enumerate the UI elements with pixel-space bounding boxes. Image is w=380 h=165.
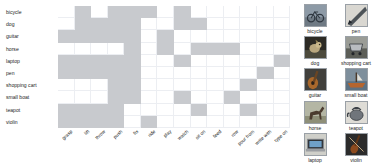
heatmap-cell: [141, 91, 158, 103]
heatmap-cell: [224, 79, 241, 91]
heatmap-cell: [75, 43, 92, 55]
heatmap-cell: [274, 30, 291, 42]
heatmap-cell: [174, 116, 191, 128]
row-label: laptop: [6, 55, 54, 67]
gallery-item-label: guitar: [296, 92, 334, 98]
heatmap-cell: [91, 55, 108, 67]
heatmap-cell: [174, 67, 191, 79]
heatmap-cell: [191, 116, 208, 128]
heatmap-cell: [274, 43, 291, 55]
column-label: throw: [94, 129, 106, 141]
gallery-item-label: bicycle: [296, 28, 334, 34]
shopping-cart-thumbnail: [345, 36, 368, 59]
heatmap-cell: [91, 79, 108, 91]
heatmap-cell: [58, 18, 75, 30]
gallery-item: dog: [296, 36, 334, 66]
row-label: bicycle: [6, 6, 54, 18]
laptop-thumbnail: [304, 133, 327, 156]
heatmap-cell: [157, 116, 174, 128]
gallery-item: bicycle: [296, 4, 334, 34]
heatmap-cell: [207, 104, 224, 116]
heatmap-cell: [124, 43, 141, 55]
column-label: ride: [147, 129, 156, 138]
heatmap-row: [58, 116, 290, 128]
gallery-item: violin: [337, 133, 375, 163]
heatmap-cell: [141, 18, 158, 30]
heatmap-row: [58, 67, 290, 79]
row-label: violin: [6, 116, 54, 128]
heatmap-cell: [257, 67, 274, 79]
gallery-item: laptop: [296, 133, 334, 163]
heatmap-cell: [75, 30, 92, 42]
heatmap-cell: [274, 55, 291, 67]
heatmap-cell: [157, 79, 174, 91]
heatmap-cell: [224, 30, 241, 42]
heatmap-cell: [108, 67, 125, 79]
heatmap-cell: [124, 104, 141, 116]
heatmap-cell: [174, 91, 191, 103]
heatmap-cell: [157, 104, 174, 116]
heatmap-cell: [91, 104, 108, 116]
heatmap-cell: [58, 116, 75, 128]
heatmap-cell: [108, 104, 125, 116]
heatmap-cell: [91, 6, 108, 18]
gallery-item-label: horse: [296, 125, 334, 131]
heatmap-row: [58, 104, 290, 116]
heatmap-cell: [141, 79, 158, 91]
heatmap-row: [58, 79, 290, 91]
heatmap-cell: [191, 18, 208, 30]
heatmap-cell: [124, 67, 141, 79]
heatmap-cell: [257, 43, 274, 55]
gallery-item: guitar: [296, 68, 334, 98]
heatmap-cell: [207, 67, 224, 79]
row-label: small boat: [6, 91, 54, 103]
heatmap-cell: [91, 91, 108, 103]
heatmap-cell: [274, 91, 291, 103]
heatmap-cell: [257, 6, 274, 18]
heatmap-row: [58, 18, 290, 30]
row-label: horse: [6, 43, 54, 55]
heatmap-cell: [207, 43, 224, 55]
heatmap-cell: [257, 30, 274, 42]
object-thumbnail-gallery: bicycledogguitarhorselaptop penshopping …: [296, 4, 378, 162]
heatmap-cell: [58, 79, 75, 91]
heatmap-cell: [191, 43, 208, 55]
heatmap-cell: [75, 79, 92, 91]
heatmap-cell: [274, 116, 291, 128]
heatmap-cell: [75, 18, 92, 30]
teapot-thumbnail: [345, 101, 368, 124]
gallery-item: horse: [296, 101, 334, 131]
row-axis-labels: bicycledogguitarhorselaptoppenshopping c…: [6, 6, 54, 128]
column-label: fix: [133, 129, 140, 136]
heatmap-cell: [58, 91, 75, 103]
bicycle-thumbnail: [304, 4, 327, 27]
guitar-thumbnail: [304, 68, 327, 91]
gallery-column-right: penshopping cartsmall boatteapotviolin: [337, 4, 375, 165]
heatmap-cell: [191, 67, 208, 79]
heatmap-cell: [141, 43, 158, 55]
heatmap-cell: [91, 67, 108, 79]
heatmap-cell: [191, 79, 208, 91]
heatmap-cell: [191, 104, 208, 116]
column-label: grasp: [61, 129, 73, 141]
heatmap-cell: [207, 116, 224, 128]
heatmap-cell: [75, 104, 92, 116]
heatmap-cell: [224, 91, 241, 103]
row-label: dog: [6, 18, 54, 30]
heatmap-cell: [240, 91, 257, 103]
heatmap-cell: [207, 91, 224, 103]
heatmap-cell: [207, 79, 224, 91]
heatmap-cell: [240, 116, 257, 128]
heatmap-cell: [157, 18, 174, 30]
heatmap-cell: [157, 43, 174, 55]
heatmap-cell: [174, 104, 191, 116]
heatmap-row: [58, 6, 290, 18]
heatmap-cell: [108, 18, 125, 30]
heatmap-cell: [157, 6, 174, 18]
heatmap-cell: [174, 43, 191, 55]
heatmap-cell: [108, 30, 125, 42]
heatmap-row: [58, 55, 290, 67]
heatmap-cell: [240, 55, 257, 67]
heatmap-cell: [108, 55, 125, 67]
column-label: sit on: [194, 129, 206, 140]
